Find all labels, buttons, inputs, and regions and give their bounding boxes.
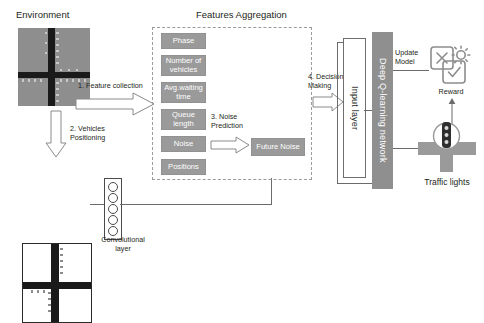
reward-icon-group (429, 45, 475, 87)
convolutional-layer (104, 178, 122, 240)
step4-arrow (312, 92, 344, 112)
reward-label: Reward (430, 88, 472, 97)
traffic-lights-icon (418, 118, 476, 172)
step1-arrow (75, 92, 155, 116)
conv-neuron (108, 182, 118, 192)
input-layer[interactable]: Input layer (343, 38, 366, 178)
conv-neuron (108, 204, 118, 214)
dqn-feedback-line-v (337, 42, 338, 184)
feature-chip-number-of-vehicles[interactable]: Number of vehicles (161, 55, 206, 76)
conv-to-positions-line-h (120, 204, 272, 205)
step3-arrow (210, 136, 250, 154)
update-model-line (393, 70, 429, 71)
environment-title: Environment (16, 10, 69, 21)
dqn-feedback-line-t (337, 42, 344, 43)
traffic-lights-label: Traffic lights (410, 178, 484, 188)
step1-label: 1. Feature collection (78, 82, 143, 91)
future-noise-box[interactable]: Future Noise (251, 138, 305, 156)
conv-neuron (108, 215, 118, 225)
vehicle-positioning-image (22, 243, 92, 323)
x-card-icon (431, 47, 453, 69)
conv-to-positions-line-v (271, 178, 272, 205)
features-aggregation-container (152, 27, 312, 180)
feature-chip-avg-waiting-time[interactable]: Avg.waiting time (161, 82, 206, 103)
step4-label: 4. Decision Making (308, 73, 344, 90)
check-card-icon (443, 61, 465, 83)
step2-arrow (45, 110, 67, 158)
step3-label: 3. Noise Prediction (211, 113, 243, 130)
input-layer-label: Input layer (350, 86, 360, 130)
update-model-label: Update Model (395, 49, 418, 66)
feature-chip-queue-length[interactable]: Queue length (161, 109, 206, 130)
deep-q-learning-label: Deep Q-learning network (378, 58, 388, 163)
grid-to-conv-line (90, 204, 104, 205)
feature-chip-positions[interactable]: Positions (161, 159, 206, 175)
feature-chip-phase[interactable]: Phase (161, 33, 206, 49)
step2-label: 2. Vehicles Positioning (70, 125, 105, 142)
convolutional-layer-label: Convolutional layer (96, 236, 150, 253)
features-aggregation-title: Features Aggregation (196, 10, 287, 21)
conv-neuron (108, 193, 118, 203)
feature-chip-noise[interactable]: Noise (161, 136, 206, 152)
deep-q-learning-network[interactable]: Deep Q-learning network (372, 32, 393, 189)
